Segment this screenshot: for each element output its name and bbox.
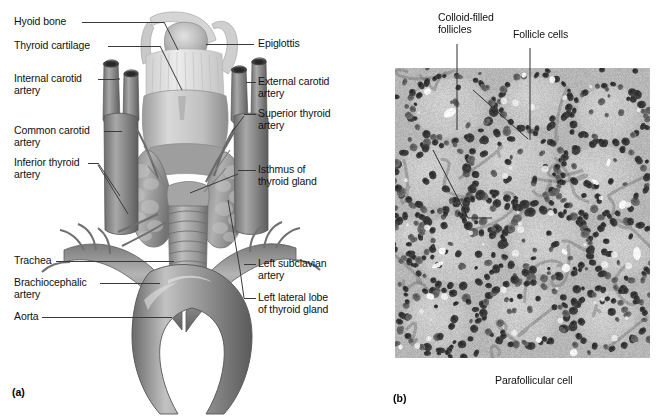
leader-line-hyoid-bone xyxy=(82,22,164,23)
leader-line-internal-carotid xyxy=(98,79,116,80)
leader-line-isthmus xyxy=(238,170,256,171)
leader-line-external-carotid xyxy=(246,82,256,83)
panel-b-letter: (b) xyxy=(393,392,406,404)
leader-line-thyroid-cartilage xyxy=(108,46,160,47)
panel-a-letter: (a) xyxy=(12,386,25,398)
label-trachea: Trachea xyxy=(14,254,51,266)
label-epiglottis: Epiglottis xyxy=(258,37,300,49)
label-follicle-cells: Follicle cells xyxy=(513,28,568,40)
label-isthmus-of-thyroid-gland: Isthmus of thyroid gland xyxy=(258,163,317,187)
label-parafollicular-cell: Parafollicular cell xyxy=(495,374,572,386)
label-internal-carotid-artery: Internal carotid artery xyxy=(14,72,82,96)
thyroid-anatomy-illustration xyxy=(0,0,360,419)
label-superior-thyroid-artery: Superior thyroid artery xyxy=(258,107,331,131)
label-brachiocephalic-artery: Brachiocephalic artery xyxy=(14,276,87,300)
leader-line-trachea xyxy=(56,261,174,262)
leader-line-superior-thyroid xyxy=(244,114,256,115)
label-aorta: Aorta xyxy=(14,310,39,322)
leader-line-common-carotid xyxy=(104,131,122,132)
panel-b-leader-lines xyxy=(360,0,663,419)
leader-line-brachiocephalic xyxy=(100,283,160,284)
leader-line-epiglottis xyxy=(206,44,254,45)
leader-line-inferior-thyroid xyxy=(88,163,98,164)
label-hyoid-bone: Hyoid bone xyxy=(14,15,66,27)
leader-line-left-lateral-lobe xyxy=(244,298,256,299)
label-external-carotid-artery: External carotid artery xyxy=(258,75,329,99)
label-left-lateral-lobe: Left lateral lobe of thyroid gland xyxy=(258,291,328,315)
panel-a-anatomical-illustration: Hyoid bone Thyroid cartilage Internal ca… xyxy=(0,0,360,419)
label-common-carotid-artery: Common carotid artery xyxy=(14,124,90,148)
label-thyroid-cartilage: Thyroid cartilage xyxy=(14,39,90,51)
label-inferior-thyroid-artery: Inferior thyroid artery xyxy=(14,156,80,180)
label-colloid-filled-follicles: Colloid-filled follicles xyxy=(438,11,494,35)
leader-line-aorta xyxy=(42,317,172,318)
panel-b-micrograph: Colloid-filled follicles Follicle cells … xyxy=(360,0,663,419)
label-left-subclavian-artery: Left subclavian artery xyxy=(258,257,327,281)
leader-line-left-subclavian xyxy=(244,264,256,265)
